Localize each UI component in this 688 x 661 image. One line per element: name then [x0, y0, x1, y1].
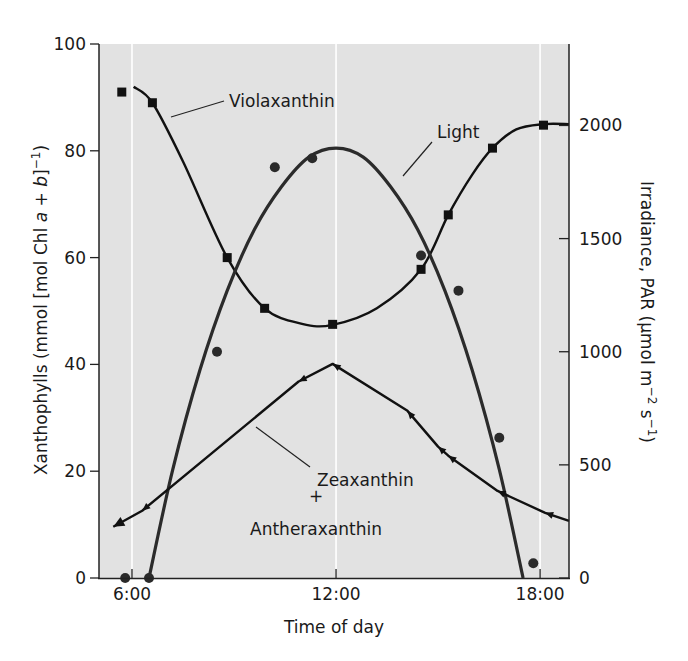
data-point-circle — [307, 153, 317, 163]
data-point-circle — [212, 347, 222, 357]
data-point-circle — [494, 433, 504, 443]
y-left-tick-label: 80 — [64, 141, 86, 161]
data-point-square — [223, 253, 232, 262]
data-point-circle — [453, 286, 463, 296]
plot-background — [99, 44, 569, 578]
y-right-tick-label: 1500 — [579, 229, 622, 249]
y-left-tick-label: 20 — [64, 461, 86, 481]
y-right-title-exp2: −1 — [645, 419, 659, 437]
data-point-circle — [416, 251, 426, 261]
x-tick-label: 6:00 — [113, 584, 151, 604]
data-point-square — [444, 210, 453, 219]
y-right-tick-label: 0 — [579, 568, 590, 588]
y-right-tick-label: 500 — [579, 455, 611, 475]
x-axis-title: Time of day — [283, 617, 384, 637]
y-left-title-part: Xanthophylls (mmol [mol Chl — [31, 222, 51, 475]
y-right-tick-label: 1000 — [579, 342, 622, 362]
x-tick-label: 18:00 — [516, 584, 565, 604]
y-right-tick-label: 2000 — [579, 115, 622, 135]
y-axis-right-title: Irradiance, PAR (µmol m−2 s−1) — [637, 181, 659, 443]
data-point-square — [148, 98, 157, 107]
y-right-title-part: Irradiance, PAR (µmol m — [637, 181, 657, 387]
data-point-circle — [270, 162, 280, 172]
y-left-tick-label: 0 — [75, 568, 86, 588]
label-zeaxanthin: Zeaxanthin — [317, 470, 414, 490]
data-point-circle — [528, 558, 538, 568]
label-antheraxanthin: Antheraxanthin — [250, 519, 382, 539]
y-left-title-italic-a: a — [31, 212, 51, 222]
label-plus: + — [309, 486, 323, 506]
y-right-title-close: ) — [637, 436, 657, 443]
y-left-title-italic-b: b — [31, 176, 51, 187]
data-point-square — [117, 88, 126, 97]
y-right-title-exp1: −2 — [645, 387, 659, 405]
y-right-title-s: s — [637, 404, 657, 418]
y-left-title-exponent: −1 — [29, 152, 43, 170]
data-point-square — [539, 121, 548, 130]
data-point-square — [488, 144, 497, 153]
data-point-square — [328, 320, 337, 329]
y-left-title-bracket: ] — [31, 169, 51, 176]
data-point-square — [417, 265, 426, 274]
y-axis-left-title: Xanthophylls (mmol [mol Chl a + b]−1) — [29, 145, 51, 475]
y-left-tick-label: 40 — [64, 354, 86, 374]
data-point-square — [260, 304, 269, 313]
y-left-tick-label: 100 — [54, 34, 86, 54]
y-left-title-close: ) — [31, 145, 51, 152]
label-violaxanthin: Violaxanthin — [229, 91, 335, 111]
x-tick-label: 12:00 — [312, 584, 361, 604]
xanthophyll-irradiance-chart: 6:0012:0018:0002040608010005001000150020… — [0, 0, 688, 661]
label-light: Light — [437, 122, 480, 142]
y-left-title-plus: + — [31, 187, 51, 212]
y-left-tick-label: 60 — [64, 248, 86, 268]
